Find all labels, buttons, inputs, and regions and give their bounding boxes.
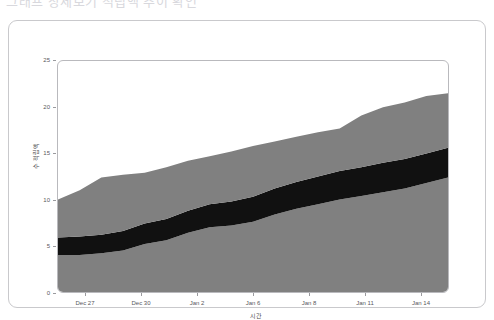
x-tick-label: Jan 14 bbox=[399, 300, 443, 306]
y-tick-mark bbox=[53, 60, 56, 61]
y-tick-mark bbox=[53, 107, 56, 108]
y-tick-label: 0 bbox=[28, 290, 50, 296]
y-tick-mark bbox=[53, 153, 56, 154]
y-tick-mark bbox=[53, 200, 56, 201]
x-axis-title: 시간 bbox=[9, 313, 494, 320]
y-tick-label: 20 bbox=[28, 104, 50, 110]
chart-card: 0510152025 Dec 27Dec 30Jan 2Jan 6Jan 8Ja… bbox=[8, 20, 486, 308]
y-tick-label: 10 bbox=[28, 197, 50, 203]
x-tick-label: Jan 11 bbox=[343, 300, 387, 306]
y-tick-mark bbox=[53, 246, 56, 247]
clipped-header-strip: 그래프 상세보기 적립액 추이 확인 bbox=[0, 0, 494, 11]
y-tick-label: 25 bbox=[28, 57, 50, 63]
x-tick-mark bbox=[309, 293, 310, 296]
x-tick-label: Jan 8 bbox=[287, 300, 331, 306]
x-tick-mark bbox=[421, 293, 422, 296]
x-tick-label: Jan 2 bbox=[175, 300, 219, 306]
x-tick-label: Dec 27 bbox=[63, 300, 107, 306]
clipped-header-text: 그래프 상세보기 적립액 추이 확인 bbox=[6, 0, 197, 10]
y-tick-label: 15 bbox=[28, 150, 50, 156]
x-tick-mark bbox=[253, 293, 254, 296]
x-tick-label: Jan 6 bbox=[231, 300, 275, 306]
y-tick-mark bbox=[53, 293, 56, 294]
x-tick-label: Dec 30 bbox=[119, 300, 163, 306]
x-tick-mark bbox=[197, 293, 198, 296]
x-tick-mark bbox=[141, 293, 142, 296]
stacked-area-svg bbox=[58, 61, 448, 292]
x-tick-mark bbox=[365, 293, 366, 296]
y-axis-title: 수 적립액 bbox=[33, 143, 39, 169]
x-tick-mark bbox=[85, 293, 86, 296]
plot-area bbox=[57, 60, 449, 293]
y-tick-label: 5 bbox=[28, 243, 50, 249]
